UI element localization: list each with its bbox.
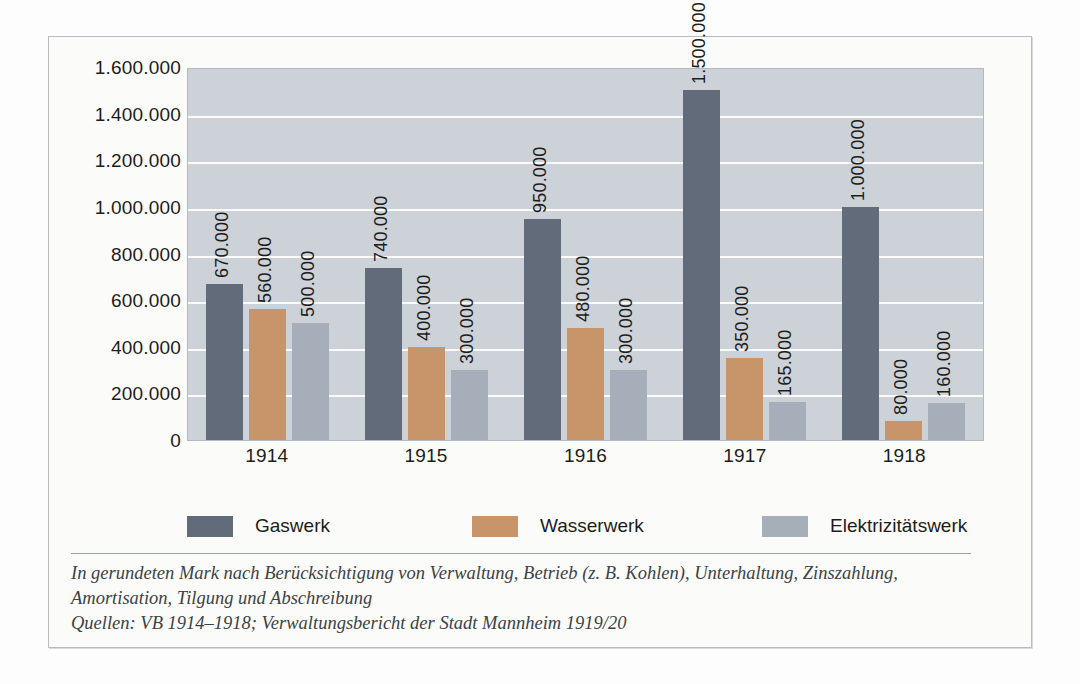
bar-value-label: 80.000 bbox=[891, 359, 912, 415]
bar-gaswerk-1915[interactable]: 740.000 bbox=[365, 268, 402, 441]
bar-value-label: 300.000 bbox=[616, 298, 637, 364]
chart-area: 0200.000400.000600.000800.0001.000.0001.… bbox=[49, 37, 1031, 507]
footnote-line-3: Quellen: VB 1914–1918; Verwaltungsberich… bbox=[71, 611, 1011, 636]
bar-gaswerk-1917[interactable]: 1.500.000 bbox=[683, 90, 720, 440]
bar-gaswerk-1916[interactable]: 950.000 bbox=[524, 219, 561, 440]
bar-value-label: 560.000 bbox=[255, 237, 276, 303]
bar-wasserwerk-1916[interactable]: 480.000 bbox=[567, 328, 604, 440]
y-axis-tick-label: 400.000 bbox=[51, 337, 181, 359]
bar-fill bbox=[524, 219, 561, 440]
bar-wasserwerk-1914[interactable]: 560.000 bbox=[249, 309, 286, 440]
bar-value-label: 1.000.000 bbox=[848, 119, 869, 201]
y-axis-tick-label: 1.000.000 bbox=[51, 197, 181, 219]
bar-value-label: 350.000 bbox=[732, 286, 753, 352]
bar-fill bbox=[451, 370, 488, 440]
x-axis-tick-label-1915: 1915 bbox=[350, 445, 501, 467]
legend-item-elektrizitätswerk[interactable]: Elektrizitätswerk bbox=[762, 515, 967, 537]
footnote: In gerundeten Mark nach Berücksichtigung… bbox=[71, 561, 1011, 636]
legend-item-gaswerk[interactable]: Gaswerk bbox=[187, 515, 472, 537]
bar-gaswerk-1914[interactable]: 670.000 bbox=[206, 284, 243, 440]
legend-swatch bbox=[472, 516, 518, 537]
y-axis-tick-label: 200.000 bbox=[51, 383, 181, 405]
bar-group-1917: 1.500.000350.000165.000 bbox=[669, 69, 820, 440]
bar-fill bbox=[567, 328, 604, 440]
bar-group-1915: 740.000400.000300.000 bbox=[351, 69, 502, 440]
bar-fill bbox=[249, 309, 286, 440]
y-axis-tick-label: 800.000 bbox=[51, 244, 181, 266]
x-axis: 19141915191619171918 bbox=[187, 445, 984, 467]
y-axis-tick-label: 600.000 bbox=[51, 290, 181, 312]
bar-fill bbox=[842, 207, 879, 440]
y-axis: 0200.000400.000600.000800.0001.000.0001.… bbox=[49, 37, 181, 507]
bar-elektrizitätswerk-1915[interactable]: 300.000 bbox=[451, 370, 488, 440]
bar-value-label: 165.000 bbox=[775, 329, 796, 395]
bar-elektrizitätswerk-1917[interactable]: 165.000 bbox=[769, 402, 806, 440]
bar-fill bbox=[365, 268, 402, 441]
footnote-divider bbox=[71, 553, 971, 554]
legend-label: Wasserwerk bbox=[540, 515, 644, 537]
y-axis-tick-label: 0 bbox=[51, 430, 181, 452]
bar-wasserwerk-1917[interactable]: 350.000 bbox=[726, 358, 763, 440]
x-axis-tick-label-1914: 1914 bbox=[191, 445, 342, 467]
bar-gaswerk-1918[interactable]: 1.000.000 bbox=[842, 207, 879, 440]
bar-groups: 670.000560.000500.000740.000400.000300.0… bbox=[188, 69, 983, 440]
bar-value-label: 950.000 bbox=[530, 146, 551, 212]
bar-fill bbox=[683, 90, 720, 440]
y-axis-tick-label: 1.200.000 bbox=[51, 150, 181, 172]
bar-value-label: 500.000 bbox=[298, 251, 319, 317]
bar-fill bbox=[610, 370, 647, 440]
footnote-line-2: Amortisation, Tilgung und Abschreibung bbox=[71, 586, 1011, 611]
bar-elektrizitätswerk-1916[interactable]: 300.000 bbox=[610, 370, 647, 440]
bar-elektrizitätswerk-1914[interactable]: 500.000 bbox=[292, 323, 329, 440]
bar-value-label: 740.000 bbox=[371, 195, 392, 261]
bar-wasserwerk-1918[interactable]: 80.000 bbox=[885, 421, 922, 440]
y-axis-tick-label: 1.400.000 bbox=[51, 104, 181, 126]
bar-fill bbox=[408, 347, 445, 440]
legend-swatch bbox=[762, 516, 808, 537]
legend-item-wasserwerk[interactable]: Wasserwerk bbox=[472, 515, 762, 537]
chart-card: 0200.000400.000600.000800.0001.000.0001.… bbox=[48, 36, 1032, 648]
bar-group-1914: 670.000560.000500.000 bbox=[192, 69, 343, 440]
bar-fill bbox=[726, 358, 763, 440]
footnote-line-1: In gerundeten Mark nach Berücksichtigung… bbox=[71, 561, 1011, 586]
bar-elektrizitätswerk-1918[interactable]: 160.000 bbox=[928, 403, 965, 440]
y-axis-tick-label: 1.600.000 bbox=[51, 57, 181, 79]
bar-fill bbox=[206, 284, 243, 440]
bar-group-1918: 1.000.00080.000160.000 bbox=[828, 69, 979, 440]
legend-swatch bbox=[187, 516, 233, 537]
bar-value-label: 300.000 bbox=[457, 298, 478, 364]
bar-fill bbox=[292, 323, 329, 440]
bar-value-label: 480.000 bbox=[573, 256, 594, 322]
chart-legend: GaswerkWasserwerkElektrizitätswerk bbox=[187, 515, 987, 537]
x-axis-tick-label-1916: 1916 bbox=[510, 445, 661, 467]
bar-value-label: 670.000 bbox=[212, 211, 233, 277]
x-axis-tick-label-1917: 1917 bbox=[669, 445, 820, 467]
bar-value-label: 1.500.000 bbox=[689, 2, 710, 84]
bar-value-label: 400.000 bbox=[414, 274, 435, 340]
bar-fill bbox=[928, 403, 965, 440]
bar-fill bbox=[885, 421, 922, 440]
page-background: 0200.000400.000600.000800.0001.000.0001.… bbox=[0, 0, 1080, 684]
bar-value-label: 160.000 bbox=[934, 330, 955, 396]
bar-fill bbox=[769, 402, 806, 440]
legend-label: Gaswerk bbox=[255, 515, 330, 537]
plot-area: 670.000560.000500.000740.000400.000300.0… bbox=[187, 68, 984, 441]
x-axis-tick-label-1918: 1918 bbox=[829, 445, 980, 467]
bar-group-1916: 950.000480.000300.000 bbox=[510, 69, 661, 440]
bar-wasserwerk-1915[interactable]: 400.000 bbox=[408, 347, 445, 440]
legend-label: Elektrizitätswerk bbox=[830, 515, 967, 537]
